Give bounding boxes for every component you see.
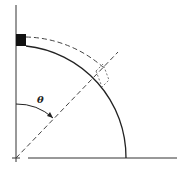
- theta-label: θ: [37, 94, 44, 105]
- black-block: [16, 34, 26, 46]
- dashed-arc: [26, 37, 104, 68]
- diagram-canvas: θ: [0, 0, 178, 176]
- diagram-svg: [0, 0, 178, 176]
- angle-arrowhead: [47, 112, 53, 118]
- radial-dashed-line: [16, 52, 118, 158]
